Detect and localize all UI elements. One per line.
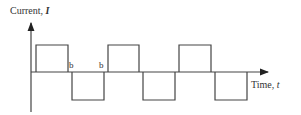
marker-b-1: b xyxy=(69,60,74,70)
x-axis-label: Time, t xyxy=(251,79,280,90)
marker-b-2: b xyxy=(99,60,104,70)
y-axis-label: Current, I xyxy=(10,5,49,16)
waveform-diagram xyxy=(0,0,301,115)
